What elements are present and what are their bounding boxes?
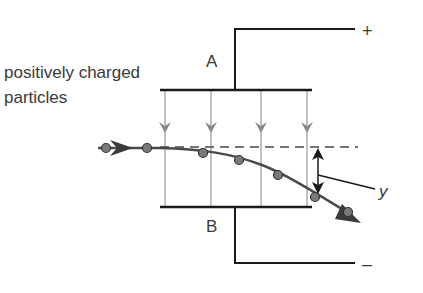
- plate-b-label: B: [206, 217, 217, 236]
- particles-label-line2: particles: [4, 88, 67, 107]
- particle: [311, 193, 320, 202]
- particle: [274, 171, 283, 180]
- deflection-label: y: [378, 182, 389, 201]
- particle: [199, 149, 208, 158]
- deflection-diagram: positively charged particles A B + – y: [0, 0, 423, 293]
- particles-label-line1: positively charged: [4, 63, 140, 82]
- negative-terminal-label: –: [362, 254, 372, 274]
- particle: [102, 144, 111, 153]
- particle: [143, 144, 152, 153]
- particle: [344, 208, 353, 217]
- positive-terminal-label: +: [362, 21, 373, 41]
- deflection-indicator: [312, 148, 375, 194]
- field-arrowheads: [159, 122, 313, 133]
- top-wire: [235, 29, 355, 90]
- particle: [235, 156, 244, 165]
- plate-a-label: A: [206, 52, 218, 71]
- leader-line: [318, 175, 375, 189]
